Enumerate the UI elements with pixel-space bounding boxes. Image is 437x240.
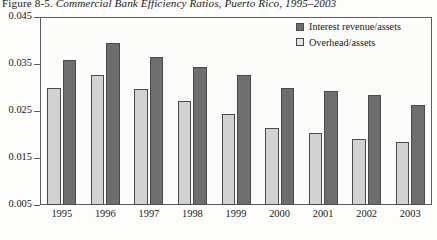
legend-swatch-icon [296,38,304,46]
x-axis-label: 2003 [388,208,432,220]
bar [178,101,192,205]
bar [91,75,105,205]
y-axis-label: 0.025 [0,105,32,115]
bar [265,128,279,205]
bar [281,88,295,206]
x-axis-label: 2002 [345,208,389,220]
x-axis-label: 1998 [171,208,215,220]
legend-item-interest-revenue: Interest revenue/assets [296,20,401,34]
legend-label: Interest revenue/assets [309,20,401,34]
bar [309,133,323,205]
figure-caption: Figure 8-5. Commercial Bank Efficiency R… [2,0,435,12]
x-axis-label: 1997 [127,208,171,220]
bar [106,43,120,205]
bar [396,142,410,205]
bar [411,105,425,205]
chart-legend: Interest revenue/assets Overhead/assets [296,20,401,51]
y-axis-label: 0.035 [0,58,32,68]
bar [193,67,207,205]
bar-chart: 0.0450.0350.0250.0150.005 19951996199719… [0,12,437,240]
legend-item-overhead: Overhead/assets [296,36,401,50]
bar [237,75,251,205]
y-axis-tick [34,17,40,18]
x-axis-label: 1995 [40,208,84,220]
y-axis-tick [34,111,40,112]
x-axis-label: 1996 [84,208,128,220]
bar [368,95,382,205]
bar [222,114,236,205]
legend-label: Overhead/assets [309,36,375,50]
x-axis-label: 2001 [301,208,345,220]
y-axis-label: 0.045 [0,11,32,21]
y-axis-tick [34,158,40,159]
bar [324,91,338,205]
bar [134,89,148,205]
figure-number: Figure 8-5. [2,0,53,9]
figure-title: Commercial Bank Efficiency Ratios, Puert… [56,0,337,9]
x-axis-label: 1999 [214,208,258,220]
legend-swatch-icon [296,23,304,31]
y-axis-label: 0.005 [0,199,32,209]
bar [352,139,366,205]
bar [63,60,77,205]
y-axis-tick [34,64,40,65]
y-axis-label: 0.015 [0,152,32,162]
bar [47,88,61,206]
x-axis-label: 2000 [258,208,302,220]
bar [150,57,164,205]
y-axis-tick [34,205,40,206]
